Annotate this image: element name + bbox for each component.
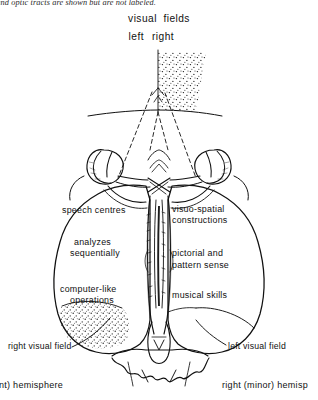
right-visual-field-stipple	[150, 48, 210, 116]
field-label-left: left	[104, 32, 144, 43]
label-operations: operations	[70, 296, 114, 305]
leader-left-visual-field	[196, 320, 226, 345]
field-label-right: right	[152, 32, 196, 43]
brain-diagram	[0, 0, 318, 400]
label-speech-centres: speech centres	[62, 206, 126, 215]
label-left-visual-field: left visual field	[228, 342, 286, 351]
footer-left-hemisphere: inant) hemisphere	[0, 381, 63, 390]
label-computer-like: computer-like	[60, 285, 117, 294]
label-sequentially: sequentially	[70, 249, 120, 258]
label-analyzes: analyzes	[74, 238, 111, 247]
label-pictorial-and: pictorial and	[172, 249, 223, 258]
label-visuo-spatial: visuo-spatial	[172, 205, 225, 214]
label-constructions: constructions	[172, 216, 228, 225]
label-musical-skills: musical skills	[172, 291, 227, 300]
label-pattern-sense: pattern sense	[172, 261, 229, 270]
footer-right-hemisphere: right (minor) hemisp	[222, 381, 308, 390]
label-right-visual-field: right visual field	[8, 342, 71, 351]
figure-caption-top: s) and optic tracts are shown but are no…	[0, 0, 318, 8]
visual-fields-title: visual fields	[0, 14, 318, 25]
figure-canvas: s) and optic tracts are shown but are no…	[0, 0, 318, 400]
